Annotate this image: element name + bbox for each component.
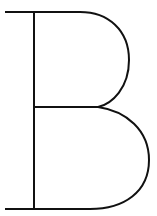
lower-bowl — [90, 107, 149, 209]
letter-b-glyph: B — [0, 0, 157, 216]
upper-bowl — [80, 12, 129, 107]
